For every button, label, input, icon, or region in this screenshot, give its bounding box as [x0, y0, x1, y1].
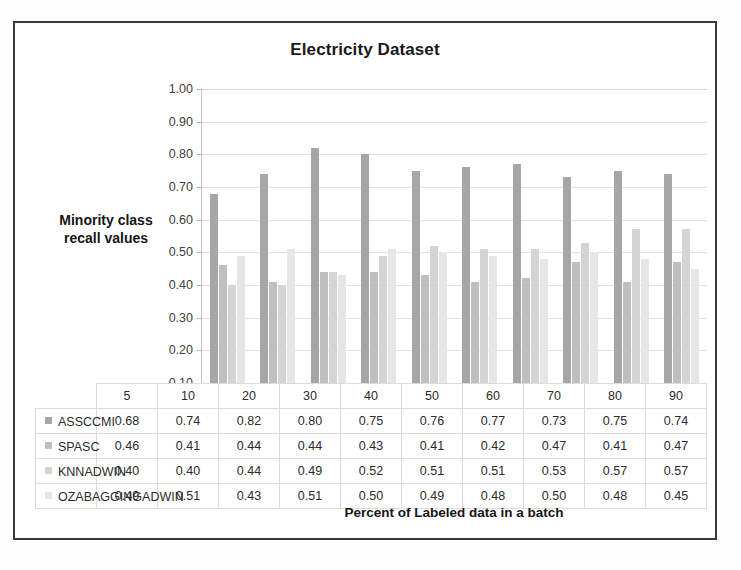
bar-knnadwin-30[interactable]: [379, 256, 387, 383]
table-cell: 0.43: [341, 434, 402, 459]
table-cell: 0.77: [463, 409, 524, 434]
bar-ozabaggingadwin-70[interactable]: [590, 252, 598, 383]
bar-group: [303, 89, 354, 383]
table-cell: 0.82: [219, 409, 280, 434]
bar-group: [606, 89, 657, 383]
bar-spasc-20[interactable]: [320, 272, 328, 383]
legend-item-ozabaggingadwin[interactable]: OZABAGGINGADWIN: [36, 484, 97, 509]
bar-knnadwin-20[interactable]: [329, 272, 337, 383]
bar-ozabaggingadwin-5[interactable]: [237, 256, 245, 383]
table-cell: 0.41: [402, 434, 463, 459]
bar-ozabaggingadwin-90[interactable]: [691, 269, 699, 383]
table-cell: 0.75: [585, 409, 646, 434]
bar-spasc-80[interactable]: [623, 282, 631, 383]
bar-knnadwin-40[interactable]: [430, 246, 438, 383]
bar-group: [202, 89, 253, 383]
table-column-header: 90: [646, 384, 707, 409]
legend-swatch-icon: [45, 417, 52, 424]
bar-assccmi-60[interactable]: [513, 164, 521, 383]
bar-spasc-5[interactable]: [219, 265, 227, 383]
y-axis-title-line1: Minority class: [31, 212, 181, 230]
bar-spasc-60[interactable]: [522, 278, 530, 383]
table-cell: 0.74: [158, 409, 219, 434]
table-cell: 0.51: [402, 459, 463, 484]
y-tick-label: 0.70: [169, 180, 193, 194]
table-cell: 0.46: [97, 434, 158, 459]
bar-assccmi-5[interactable]: [210, 194, 218, 383]
table-column-header: 50: [402, 384, 463, 409]
table-column-header: 5: [97, 384, 158, 409]
legend-swatch-icon: [45, 492, 52, 499]
bar-knnadwin-60[interactable]: [531, 249, 539, 383]
bar-ozabaggingadwin-30[interactable]: [388, 249, 396, 383]
bar-knnadwin-10[interactable]: [278, 285, 286, 383]
bar-group: [556, 89, 607, 383]
plot-area: 1.000.900.800.700.600.500.400.300.200.10: [201, 89, 707, 383]
bar-group: [404, 89, 455, 383]
bar-assccmi-30[interactable]: [361, 154, 369, 383]
bar-assccmi-70[interactable]: [563, 177, 571, 383]
bar-ozabaggingadwin-80[interactable]: [641, 259, 649, 383]
y-tick-label: 0.60: [169, 213, 193, 227]
bar-group: [505, 89, 556, 383]
table-column-header: 10: [158, 384, 219, 409]
table-header-row: 5102030405060708090: [36, 384, 707, 409]
plot-canvas: 1.000.900.800.700.600.500.400.300.200.10: [201, 89, 707, 383]
bar-ozabaggingadwin-40[interactable]: [439, 252, 447, 383]
table-row: SPASC0.460.410.440.440.430.410.420.470.4…: [36, 434, 707, 459]
table-cell: 0.52: [341, 459, 402, 484]
table-cell: 0.80: [280, 409, 341, 434]
y-axis-title-line2: recall values: [31, 230, 181, 248]
table-cell: 0.44: [219, 434, 280, 459]
bar-spasc-10[interactable]: [269, 282, 277, 383]
bar-ozabaggingadwin-50[interactable]: [489, 256, 497, 383]
y-tick-label: 0.20: [169, 343, 193, 357]
bar-assccmi-40[interactable]: [412, 171, 420, 383]
table-cell: 0.47: [524, 434, 585, 459]
table-column-header: 70: [524, 384, 585, 409]
bar-ozabaggingadwin-10[interactable]: [287, 249, 295, 383]
bar-ozabaggingadwin-60[interactable]: [540, 259, 548, 383]
y-tick-label: 1.00: [169, 82, 193, 96]
bar-assccmi-20[interactable]: [311, 148, 319, 383]
legend-swatch-icon: [45, 442, 52, 449]
y-tick-label: 0.50: [169, 245, 193, 259]
table-column-header: 80: [585, 384, 646, 409]
table-column-header: 30: [280, 384, 341, 409]
data-table: 5102030405060708090ASSCCMI0.680.740.820.…: [35, 383, 707, 509]
bar-knnadwin-70[interactable]: [581, 243, 589, 383]
bar-assccmi-80[interactable]: [614, 171, 622, 383]
legend-item-assccmi[interactable]: ASSCCMI: [36, 409, 97, 434]
y-tick-label: 0.30: [169, 311, 193, 325]
table-cell: 0.57: [646, 459, 707, 484]
y-axis-title: Minority class recall values: [31, 212, 181, 247]
bar-knnadwin-80[interactable]: [632, 229, 640, 383]
table-cell: 0.42: [463, 434, 524, 459]
bar-assccmi-50[interactable]: [462, 167, 470, 383]
bar-spasc-40[interactable]: [421, 275, 429, 383]
y-tick-label: 0.80: [169, 147, 193, 161]
table-cell: 0.41: [158, 434, 219, 459]
legend-label: ASSCCMI: [58, 414, 115, 428]
bar-group: [354, 89, 405, 383]
bar-spasc-90[interactable]: [673, 262, 681, 383]
bar-knnadwin-90[interactable]: [682, 229, 690, 383]
bar-spasc-50[interactable]: [471, 282, 479, 383]
table-corner-cell: [36, 384, 97, 409]
table-cell: 0.57: [585, 459, 646, 484]
table-column-header: 20: [219, 384, 280, 409]
table-cell: 0.44: [219, 459, 280, 484]
legend-item-spasc[interactable]: SPASC: [36, 434, 97, 459]
table-cell: 0.74: [646, 409, 707, 434]
bar-assccmi-10[interactable]: [260, 174, 268, 383]
bar-assccmi-90[interactable]: [664, 174, 672, 383]
bar-knnadwin-5[interactable]: [228, 285, 236, 383]
legend-item-knnadwin[interactable]: KNNADWIN: [36, 459, 97, 484]
bar-spasc-30[interactable]: [370, 272, 378, 383]
table-cell: 0.44: [280, 434, 341, 459]
bar-ozabaggingadwin-20[interactable]: [338, 275, 346, 383]
legend-swatch-icon: [45, 467, 52, 474]
table-cell: 0.49: [280, 459, 341, 484]
bar-knnadwin-50[interactable]: [480, 249, 488, 383]
bar-spasc-70[interactable]: [572, 262, 580, 383]
